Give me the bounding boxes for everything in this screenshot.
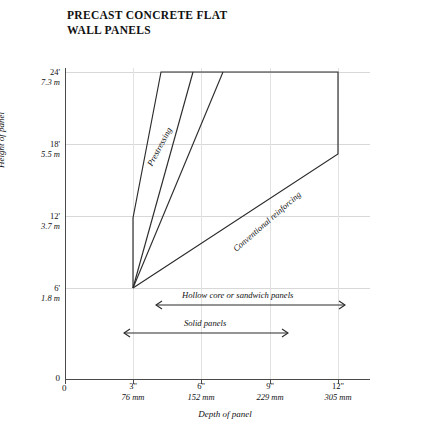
y-tick-label-24: 24' 7.3 m [14,67,60,87]
chart-container: PRECAST CONCRETE FLAT WALL PANELS Height… [0,0,430,430]
plot-area: Prestressing Conventional reinforcing Ho… [65,68,370,380]
chart-title: PRECAST CONCRETE FLAT WALL PANELS [67,8,228,38]
y-axis-title: Height of panel [0,112,6,168]
x-tick-label-3in: 3" 76 mm [103,381,163,403]
y-tick-label-12: 12' 3.7 m [14,211,60,231]
x-tick-label-0: 0 [62,383,67,393]
x-tick-label-9in: 9" 229 mm [240,381,300,403]
annotation-solid-panels: Solid panels [184,318,226,328]
y-tick-label-0: 0 [14,373,60,383]
x-tick-label-6in: 6" 152 mm [171,381,231,403]
chart-title-line-2: WALL PANELS [67,23,228,38]
x-tick-label-12in: 12" 305 mm [308,381,368,403]
y-tick-label-6: 6' 1.8 m [14,283,60,303]
x-axis-title: Depth of panel [10,409,430,419]
chart-title-line-1: PRECAST CONCRETE FLAT [67,8,228,23]
annotation-hollow-core: Hollow core or sandwich panels [182,290,293,300]
y-tick-label-18: 18' 5.5 m [14,139,60,159]
range-bars [65,68,370,380]
